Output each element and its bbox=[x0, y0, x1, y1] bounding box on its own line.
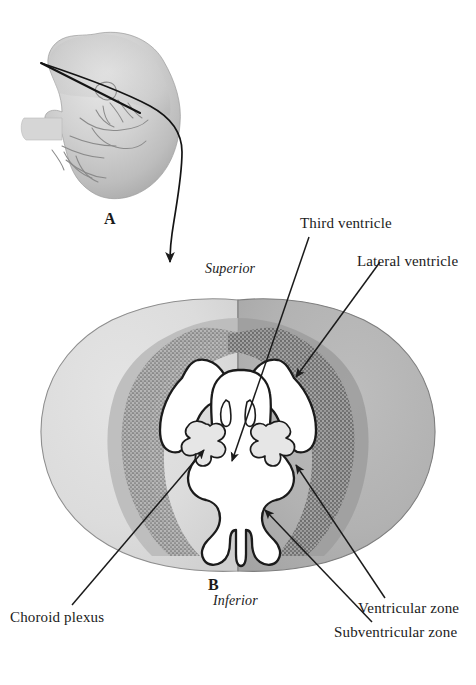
right-foramen-notch bbox=[245, 400, 255, 426]
label-subventricular-zone: Subventricular zone bbox=[334, 624, 457, 641]
panel-a-embryo bbox=[21, 32, 182, 262]
orientation-inferior: Inferior bbox=[213, 593, 258, 609]
panel-b-letter: B bbox=[208, 576, 219, 594]
orientation-superior: Superior bbox=[205, 261, 255, 277]
figure-root: A B Superior Inferior Third ventricle La… bbox=[0, 0, 476, 685]
label-choroid-plexus: Choroid plexus bbox=[10, 609, 104, 626]
label-lateral-ventricle: Lateral ventricle bbox=[357, 253, 458, 270]
label-third-ventricle: Third ventricle bbox=[300, 215, 392, 232]
figure-illustration bbox=[0, 0, 476, 685]
label-ventricular-zone: Ventricular zone bbox=[358, 600, 459, 617]
left-foramen-notch bbox=[221, 400, 231, 426]
embryo-limb-bud bbox=[21, 118, 62, 140]
panel-b-section bbox=[41, 299, 435, 572]
panel-a-letter: A bbox=[104, 210, 116, 228]
